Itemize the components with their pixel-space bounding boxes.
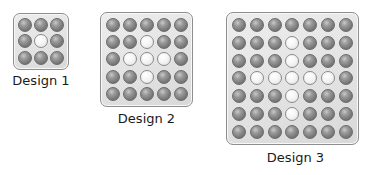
gray-ball-icon — [250, 89, 264, 103]
gray-ball-icon — [106, 87, 120, 101]
white-ball-icon — [140, 52, 154, 66]
design-1-label: Design 1 — [10, 73, 72, 88]
gray-ball-icon — [140, 87, 154, 101]
gray-ball-icon — [321, 125, 335, 139]
gray-ball-icon — [268, 125, 282, 139]
design-2-board — [100, 12, 193, 107]
gray-ball-icon — [285, 18, 299, 32]
gray-ball-icon — [339, 18, 353, 32]
gray-ball-icon — [232, 36, 246, 50]
gray-ball-icon — [321, 36, 335, 50]
gray-ball-icon — [106, 70, 120, 84]
gray-ball-icon — [303, 89, 317, 103]
gray-ball-icon — [250, 54, 264, 68]
gray-ball-icon — [232, 107, 246, 121]
design-3-board — [226, 12, 359, 145]
gray-ball-icon — [157, 18, 171, 32]
gray-ball-icon — [321, 107, 335, 121]
gray-ball-icon — [232, 71, 246, 85]
white-ball-icon — [285, 54, 299, 68]
gray-ball-icon — [123, 70, 137, 84]
gray-ball-icon — [250, 107, 264, 121]
gray-ball-icon — [123, 87, 137, 101]
white-ball-icon — [321, 71, 335, 85]
gray-ball-icon — [339, 125, 353, 139]
gray-ball-icon — [106, 18, 120, 32]
design-3-label: Design 3 — [262, 150, 329, 165]
white-ball-icon — [140, 70, 154, 84]
gray-ball-icon — [303, 18, 317, 32]
gray-ball-icon — [232, 18, 246, 32]
gray-ball-icon — [321, 89, 335, 103]
gray-ball-icon — [34, 18, 48, 32]
gray-ball-icon — [268, 54, 282, 68]
white-ball-icon — [285, 107, 299, 121]
white-ball-icon — [268, 71, 282, 85]
gray-ball-icon — [285, 125, 299, 139]
gray-ball-icon — [268, 18, 282, 32]
white-ball-icon — [285, 71, 299, 85]
gray-ball-icon — [50, 51, 64, 65]
gray-ball-icon — [174, 87, 188, 101]
gray-ball-icon — [268, 36, 282, 50]
gray-ball-icon — [157, 35, 171, 49]
gray-ball-icon — [18, 51, 32, 65]
design-2-label: Design 2 — [113, 111, 180, 126]
white-ball-icon — [34, 34, 48, 48]
gray-ball-icon — [339, 107, 353, 121]
gray-ball-icon — [250, 125, 264, 139]
gray-ball-icon — [339, 54, 353, 68]
white-ball-icon — [285, 89, 299, 103]
gray-ball-icon — [174, 35, 188, 49]
white-ball-icon — [123, 52, 137, 66]
gray-ball-icon — [232, 89, 246, 103]
gray-ball-icon — [303, 107, 317, 121]
gray-ball-icon — [123, 18, 137, 32]
white-ball-icon — [285, 36, 299, 50]
gray-ball-icon — [106, 52, 120, 66]
gray-ball-icon — [250, 36, 264, 50]
gray-ball-icon — [174, 52, 188, 66]
white-ball-icon — [140, 35, 154, 49]
white-ball-icon — [157, 52, 171, 66]
gray-ball-icon — [339, 36, 353, 50]
gray-ball-icon — [232, 54, 246, 68]
gray-ball-icon — [174, 70, 188, 84]
gray-ball-icon — [232, 125, 246, 139]
gray-ball-icon — [174, 18, 188, 32]
gray-ball-icon — [303, 36, 317, 50]
gray-ball-icon — [50, 34, 64, 48]
gray-ball-icon — [303, 54, 317, 68]
gray-ball-icon — [250, 18, 264, 32]
gray-ball-icon — [140, 18, 154, 32]
gray-ball-icon — [18, 18, 32, 32]
gray-ball-icon — [321, 54, 335, 68]
gray-ball-icon — [339, 89, 353, 103]
design-1-board — [13, 13, 69, 70]
gray-ball-icon — [106, 35, 120, 49]
gray-ball-icon — [157, 70, 171, 84]
white-ball-icon — [250, 71, 264, 85]
gray-ball-icon — [303, 125, 317, 139]
gray-ball-icon — [34, 51, 48, 65]
gray-ball-icon — [50, 18, 64, 32]
white-ball-icon — [303, 71, 317, 85]
gray-ball-icon — [339, 71, 353, 85]
gray-ball-icon — [268, 107, 282, 121]
gray-ball-icon — [18, 34, 32, 48]
gray-ball-icon — [268, 89, 282, 103]
gray-ball-icon — [157, 87, 171, 101]
gray-ball-icon — [321, 18, 335, 32]
gray-ball-icon — [123, 35, 137, 49]
